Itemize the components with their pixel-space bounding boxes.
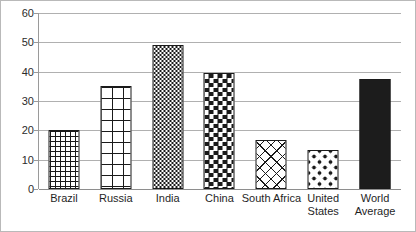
y-tick-label: 30 [2, 96, 34, 107]
bar-united-states [308, 150, 339, 189]
y-tick-label: 10 [2, 154, 34, 165]
x-label-world-average: World Average [349, 192, 401, 217]
bar-brazil [48, 130, 79, 189]
bar-slot-brazil [38, 13, 90, 189]
x-label-line: States [297, 205, 349, 218]
x-label-line: Russia [90, 192, 142, 205]
y-tick-label: 20 [2, 125, 34, 136]
y-tick-label: 60 [2, 8, 34, 19]
x-label-india: India [142, 192, 194, 205]
x-label-united-states: United States [297, 192, 349, 217]
bar-series [38, 13, 401, 189]
bar-chart: 60 50 40 30 20 10 0 [0, 0, 416, 232]
x-axis: Brazil Russia India China South Africa U… [38, 192, 401, 232]
x-label-line: Brazil [38, 192, 90, 205]
x-label-russia: Russia [90, 192, 142, 205]
bar-india [152, 45, 183, 189]
x-label-china: China [194, 192, 246, 205]
y-tick-label: 50 [2, 37, 34, 48]
bar-slot-south-africa [245, 13, 297, 189]
x-label-brazil: Brazil [38, 192, 90, 205]
bar-world-average [360, 79, 391, 189]
bar-slot-india [142, 13, 194, 189]
x-label-line: China [194, 192, 246, 205]
gridline-0-baseline [39, 189, 401, 190]
y-tick-label: 40 [2, 66, 34, 77]
bar-russia [100, 86, 131, 189]
bar-slot-russia [90, 13, 142, 189]
bar-china [204, 73, 235, 189]
y-tick-label: 0 [2, 184, 34, 195]
bar-slot-world-average [349, 13, 401, 189]
x-label-line: World [349, 192, 401, 205]
bar-slot-china [194, 13, 246, 189]
y-axis: 60 50 40 30 20 10 0 [1, 1, 34, 232]
x-label-line: South Africa [241, 192, 301, 205]
x-label-line: United [297, 192, 349, 205]
y-tick-mark [34, 189, 38, 190]
bar-slot-united-states [297, 13, 349, 189]
x-label-line: India [142, 192, 194, 205]
bar-south-africa [256, 140, 287, 189]
x-label-line: Average [349, 205, 401, 218]
x-label-south-africa: South Africa [241, 192, 301, 205]
